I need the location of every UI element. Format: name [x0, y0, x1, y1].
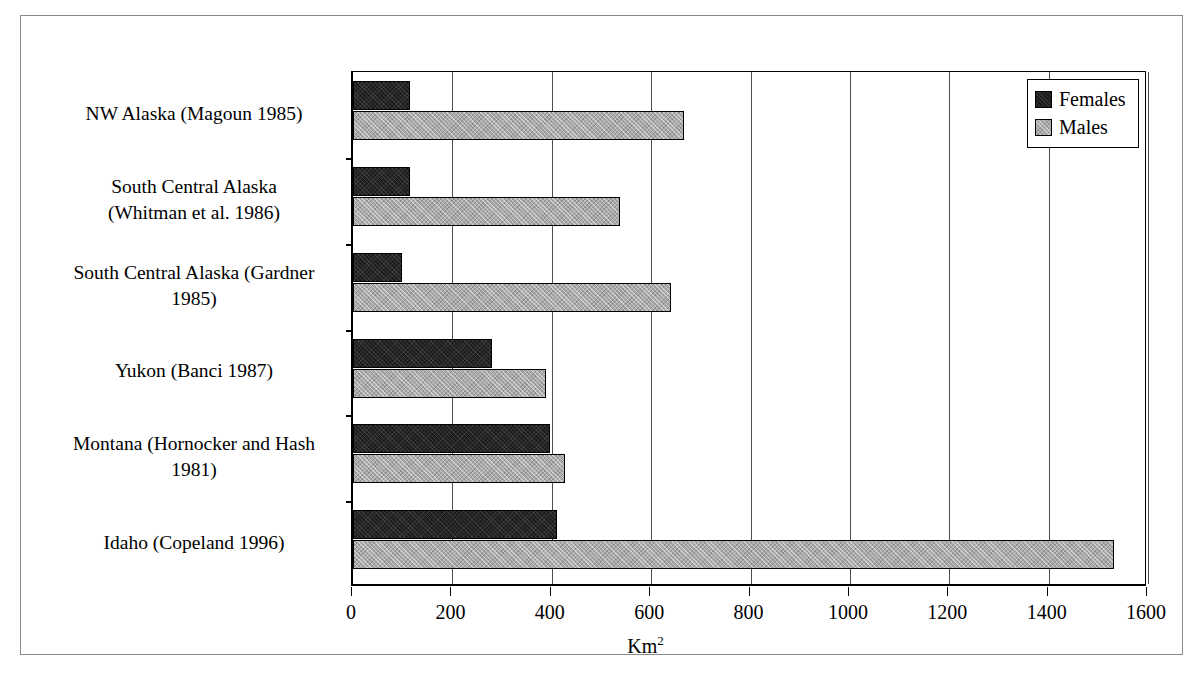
bar-males	[353, 454, 565, 483]
legend-item-females[interactable]: Females	[1035, 85, 1126, 113]
x-axis-tick-label: 400	[535, 601, 565, 624]
category-label: South Central Alaska(Whitman et al. 1986…	[39, 174, 349, 226]
bar-females	[353, 424, 550, 453]
y-axis-tick	[346, 415, 353, 417]
bar-males	[353, 540, 1114, 569]
x-axis-tick	[1146, 587, 1147, 596]
category-label-line: (Whitman et al. 1986)	[39, 200, 349, 226]
x-axis-tick-label: 1600	[1126, 601, 1166, 624]
x-axis-tick-label: 1200	[927, 601, 967, 624]
bar-group	[353, 330, 1145, 416]
x-axis-title-superscript: 2	[657, 633, 664, 648]
x-axis: 02004006008001000120014001600	[351, 587, 1146, 637]
legend-swatch-males-icon	[1035, 119, 1052, 136]
x-axis-tick	[848, 587, 849, 596]
x-axis-tick-label: 600	[634, 601, 664, 624]
bar-males	[353, 283, 671, 312]
category-label-line: NW Alaska (Magoun 1985)	[39, 101, 349, 127]
legend-item-males[interactable]: Males	[1035, 113, 1126, 141]
x-axis-tick-label: 1000	[828, 601, 868, 624]
bar-females	[353, 167, 410, 196]
x-axis-tick	[550, 587, 551, 596]
bar-females	[353, 339, 492, 368]
category-label-line: South Central Alaska	[39, 174, 349, 200]
x-axis-tick	[947, 587, 948, 596]
bar-females	[353, 81, 410, 110]
x-axis-tick	[1047, 587, 1048, 596]
category-label: NW Alaska (Magoun 1985)	[39, 101, 349, 127]
chart-legend: FemalesMales	[1027, 79, 1139, 148]
legend-label: Females	[1059, 89, 1126, 109]
x-axis-tick	[749, 587, 750, 596]
bar-females	[353, 510, 557, 539]
y-axis-tick	[346, 501, 353, 503]
plot-area	[351, 71, 1146, 586]
x-axis-tick-label: 0	[346, 601, 356, 624]
bar-females	[353, 253, 402, 282]
category-label: Montana (Hornocker and Hash1981)	[39, 431, 349, 483]
category-label-line: South Central Alaska (Gardner	[39, 260, 349, 286]
category-label: Yukon (Banci 1987)	[39, 358, 349, 384]
chart-page: NW Alaska (Magoun 1985)South Central Ala…	[0, 0, 1202, 673]
figure-frame: NW Alaska (Magoun 1985)South Central Ala…	[20, 15, 1183, 655]
x-axis-tick-label: 1400	[1027, 601, 1067, 624]
x-axis-tick	[649, 587, 650, 596]
category-label: Idaho (Copeland 1996)	[39, 530, 349, 556]
x-axis-tick	[450, 587, 451, 596]
x-axis-title-base: Km	[627, 635, 657, 657]
y-axis-tick	[346, 158, 353, 160]
category-label-line: Idaho (Copeland 1996)	[39, 530, 349, 556]
legend-swatch-females-icon	[1035, 91, 1052, 108]
category-label-line: 1981)	[39, 457, 349, 483]
bar-group	[353, 501, 1145, 587]
bar-group	[353, 244, 1145, 330]
x-axis-tick-label: 800	[734, 601, 764, 624]
y-axis-tick	[346, 330, 353, 332]
gridline	[1148, 72, 1149, 584]
category-label-line: Yukon (Banci 1987)	[39, 358, 349, 384]
x-axis-tick	[351, 587, 352, 596]
y-axis-tick	[346, 244, 353, 246]
category-label: South Central Alaska (Gardner1985)	[39, 260, 349, 312]
legend-label: Males	[1059, 117, 1108, 137]
bar-males	[353, 369, 546, 398]
category-label-line: 1985)	[39, 286, 349, 312]
category-axis-labels: NW Alaska (Magoun 1985)South Central Ala…	[31, 16, 349, 654]
x-axis-title: Km2	[21, 633, 1182, 658]
bar-group	[353, 158, 1145, 244]
category-label-line: Montana (Hornocker and Hash	[39, 431, 349, 457]
x-axis-tick-label: 200	[435, 601, 465, 624]
bar-males	[353, 111, 684, 140]
bar-group	[353, 415, 1145, 501]
bar-males	[353, 197, 620, 226]
